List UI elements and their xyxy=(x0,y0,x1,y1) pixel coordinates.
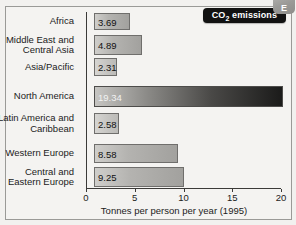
bar-row: Western Europe8.58 xyxy=(8,144,288,163)
bar-value-label: 3.69 xyxy=(98,16,117,27)
category-label: Africa xyxy=(0,16,74,27)
bar-value-label: 4.89 xyxy=(98,40,117,51)
bar-value-label: 2.58 xyxy=(98,118,117,129)
bar-value-label: 2.31 xyxy=(98,62,117,73)
bar-row: Central and Eastern Europe9.25 xyxy=(8,167,288,187)
x-axis-title: Tonnes per person per year (1995) xyxy=(60,205,288,216)
x-tick-label: 20 xyxy=(266,192,296,203)
plot-area: Africa3.69Middle East and Central Asia4.… xyxy=(0,0,296,225)
chart-title-text: CO2 emissions xyxy=(212,10,277,22)
chart-screenshot: CO2 emissions E Africa3.69Middle East an… xyxy=(0,0,296,225)
section-tab-e: E xyxy=(273,0,295,14)
category-label: Western Europe xyxy=(0,148,74,159)
section-tab-letter: E xyxy=(273,3,295,13)
bar-value-label: 8.58 xyxy=(98,148,117,159)
category-label: Asia/Pacific xyxy=(0,62,74,73)
bar-value-label: 9.25 xyxy=(98,172,117,183)
x-tick-label: 0 xyxy=(71,192,101,203)
bar-row: Latin America and Caribbean2.58 xyxy=(8,113,288,134)
bar-row: North America19.34 xyxy=(8,86,288,107)
bar-value-label: 19.34 xyxy=(98,91,122,102)
category-label: Latin America and Caribbean xyxy=(0,113,74,134)
bar-row: Middle East and Central Asia4.89 xyxy=(8,35,288,55)
category-label: Central and Eastern Europe xyxy=(0,167,74,188)
x-tick-label: 10 xyxy=(169,192,199,203)
category-label: Middle East and Central Asia xyxy=(0,35,74,56)
category-label: North America xyxy=(0,91,74,102)
bar xyxy=(94,86,283,107)
x-tick-label: 15 xyxy=(217,192,247,203)
x-tick-label: 5 xyxy=(120,192,150,203)
bar-row: Asia/Pacific2.31 xyxy=(8,58,288,76)
